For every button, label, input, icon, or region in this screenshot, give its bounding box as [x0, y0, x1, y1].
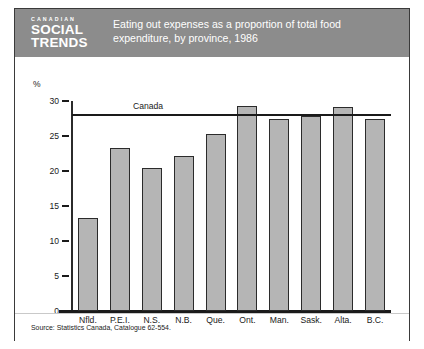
bar — [269, 119, 289, 311]
bar — [142, 168, 162, 311]
canadian-social-trends-logo: CANADIAN SOCIAL TRENDS — [15, 9, 109, 49]
bar — [78, 218, 98, 311]
y-axis-unit-label: % — [33, 79, 41, 89]
bar — [333, 107, 353, 311]
bar — [301, 116, 321, 311]
canada-reference-label: Canada — [133, 101, 163, 111]
y-axis-tick-mark — [62, 240, 69, 242]
bar — [206, 134, 226, 311]
y-axis-tick-mark — [62, 100, 69, 102]
chart-figure: CANADIAN SOCIAL TRENDS Eating out expens… — [14, 8, 410, 341]
source-note: Source: Statistics Canada, Catalogue 62-… — [31, 324, 171, 331]
x-axis-tick-label: Ont. — [232, 315, 264, 325]
y-axis-tick-mark — [62, 205, 69, 207]
bar — [110, 148, 130, 311]
bar-series — [72, 57, 391, 313]
bar — [237, 106, 257, 311]
y-axis-tick-mark — [62, 135, 69, 137]
chart-title: Eating out expenses as a proportion of t… — [109, 9, 409, 45]
canada-reference-line — [72, 114, 391, 117]
x-axis-tick-label: Sask. — [295, 315, 327, 325]
plot-area: % 051015202530 Canada Nfld.P.E.I.N.S.N.B… — [15, 57, 409, 342]
y-axis-tick-mark — [62, 275, 69, 277]
bar — [174, 156, 194, 311]
x-axis-tick-label: N.B. — [168, 315, 200, 325]
x-axis-tick-label: Que. — [200, 315, 232, 325]
x-axis-tick-label: B.C. — [359, 315, 391, 325]
source-divider — [15, 313, 409, 314]
logo-line-trends: TRENDS — [31, 36, 109, 49]
bar — [365, 119, 385, 311]
x-axis-tick-label: Alta. — [327, 315, 359, 325]
y-axis-tick-mark — [62, 170, 69, 172]
x-axis-tick-label: Man. — [263, 315, 295, 325]
figure-header-banner: CANADIAN SOCIAL TRENDS Eating out expens… — [15, 9, 409, 57]
